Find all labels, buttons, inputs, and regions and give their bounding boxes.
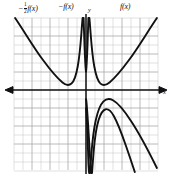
y-axis-label: y [88, 6, 91, 13]
curve-label-f-of-x: f(x) [120, 3, 130, 11]
neg-sign-half: − [18, 4, 23, 13]
x-axis-label: x [163, 88, 166, 95]
graph-figure [0, 0, 172, 176]
curve-label-neg-half-f-of-x: −12f(x) [18, 2, 38, 14]
coordinate-plane-svg [0, 0, 172, 176]
function-expression-half: f(x) [27, 4, 37, 13]
curve-label-neg-f-of-x: −f(x) [58, 3, 74, 11]
